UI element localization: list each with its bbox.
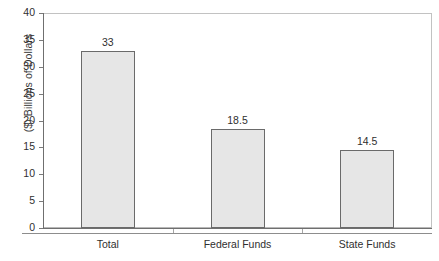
y-axis-tick-mark <box>39 40 43 41</box>
y-axis-tick-label: 20 <box>23 114 35 126</box>
y-axis-tick-mark <box>39 94 43 95</box>
bar <box>211 129 265 228</box>
y-axis-tick-mark <box>39 201 43 202</box>
y-axis-tick-label: 0 <box>29 221 35 233</box>
x-axis-tick-mark <box>302 229 303 233</box>
bar <box>340 150 394 228</box>
y-axis-tick-label: 35 <box>23 33 35 45</box>
x-axis-tick-mark <box>173 229 174 233</box>
category-axis-line <box>22 233 432 234</box>
bar-value-label: 33 <box>68 36 148 48</box>
y-axis-tick-label: 5 <box>29 194 35 206</box>
y-axis-tick-mark <box>39 67 43 68</box>
y-axis-tick-mark <box>39 174 43 175</box>
y-axis-tick-label: 25 <box>23 87 35 99</box>
x-axis-category-label: Total <box>48 238 168 250</box>
bar-value-label: 18.5 <box>198 114 278 126</box>
y-axis-tick-label: 30 <box>23 60 35 72</box>
y-axis-tick-label: 10 <box>23 167 35 179</box>
bar-chart-figure: ($) Billions of Dollars 0510152025303540… <box>0 0 439 261</box>
y-axis-tick-mark <box>39 228 43 229</box>
y-axis-tick-mark <box>39 121 43 122</box>
bar <box>81 51 135 228</box>
y-axis-tick-mark <box>39 147 43 148</box>
bar-value-label: 14.5 <box>327 135 407 147</box>
y-axis-tick-label: 40 <box>23 6 35 18</box>
baseline-axis-line <box>43 228 432 229</box>
y-axis-tick-label: 15 <box>23 140 35 152</box>
x-axis-category-label: State Funds <box>307 238 427 250</box>
y-axis-tick-mark <box>39 13 43 14</box>
value-axis-line <box>43 13 44 229</box>
x-axis-category-label: Federal Funds <box>178 238 298 250</box>
